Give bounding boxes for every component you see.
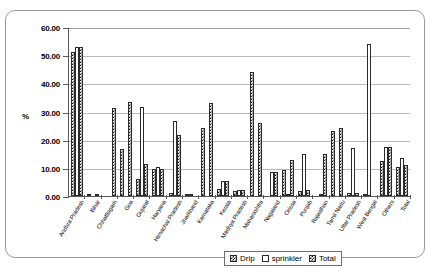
bar bbox=[87, 194, 91, 196]
bar bbox=[112, 108, 116, 196]
bar-group bbox=[331, 28, 343, 196]
bar bbox=[323, 154, 327, 196]
bar bbox=[128, 102, 132, 196]
bar bbox=[351, 148, 355, 196]
x-axis-tick bbox=[377, 195, 378, 199]
bar bbox=[258, 123, 262, 196]
bar bbox=[306, 190, 310, 196]
x-axis-tick bbox=[361, 195, 362, 199]
bar-group bbox=[380, 28, 392, 196]
x-axis-tick-label: Others bbox=[380, 199, 394, 217]
bar-group bbox=[396, 28, 408, 196]
bar-group bbox=[136, 28, 148, 196]
bar bbox=[144, 164, 148, 196]
y-axis-tick-label: 40.00 bbox=[41, 80, 60, 89]
legend-swatch-icon bbox=[309, 255, 316, 262]
y-axis-tick-label: 60.00 bbox=[41, 24, 60, 33]
bar bbox=[367, 44, 371, 196]
bar-group bbox=[120, 28, 132, 196]
x-axis-tick bbox=[182, 195, 183, 199]
y-axis-tick-label: 10.00 bbox=[41, 164, 60, 173]
x-axis-tick-label: Nagaland bbox=[262, 199, 280, 223]
legend-item[interactable]: sprinkler bbox=[262, 254, 302, 263]
x-axis-tick bbox=[198, 195, 199, 199]
x-axis-tick bbox=[133, 195, 134, 199]
x-axis-tick-label: Andhra Pradesh bbox=[58, 199, 85, 238]
x-axis-tick bbox=[312, 195, 313, 199]
x-axis-tick bbox=[117, 195, 118, 199]
bar-group bbox=[201, 28, 213, 196]
y-axis-tick-label: 0.00 bbox=[45, 193, 60, 202]
legend-item[interactable]: Total bbox=[309, 254, 336, 263]
x-axis-tick bbox=[247, 195, 248, 199]
bar bbox=[241, 190, 245, 196]
bar-group bbox=[104, 28, 116, 196]
bar bbox=[388, 147, 392, 196]
y-axis-tick bbox=[63, 197, 69, 198]
bar-group bbox=[71, 28, 83, 196]
y-axis-caption: % bbox=[22, 112, 29, 121]
bar-group bbox=[87, 28, 99, 196]
x-axis-tick bbox=[84, 195, 85, 199]
x-axis-tick-label: Goa bbox=[123, 199, 134, 212]
x-axis-tick-label: Punjab bbox=[299, 199, 314, 218]
legend-swatch-icon bbox=[262, 255, 269, 262]
bar-group bbox=[152, 28, 164, 196]
x-axis-tick bbox=[280, 195, 281, 199]
y-axis-tick-label: 30.00 bbox=[41, 108, 60, 117]
y-axis-tick-label: 50.00 bbox=[41, 52, 60, 61]
bar bbox=[339, 128, 343, 196]
x-axis-tick bbox=[231, 195, 232, 199]
bar-group bbox=[266, 28, 278, 196]
bar-group bbox=[298, 28, 310, 196]
x-axis-tick-label: Haryana bbox=[150, 199, 167, 221]
bar bbox=[189, 194, 193, 196]
bar bbox=[274, 172, 278, 196]
x-axis-tick bbox=[149, 195, 150, 199]
x-axis-tick-label: Total bbox=[399, 199, 411, 213]
x-axis-tick bbox=[263, 195, 264, 199]
bar-group bbox=[363, 28, 375, 196]
bar-group bbox=[169, 28, 181, 196]
bar-group bbox=[315, 28, 327, 196]
bar bbox=[225, 181, 229, 196]
bar-group bbox=[282, 28, 294, 196]
x-axis-tick-label: Orissa bbox=[283, 199, 297, 216]
x-axis-tick bbox=[215, 195, 216, 199]
bar bbox=[120, 149, 124, 196]
bar bbox=[177, 135, 181, 196]
x-axis-tick bbox=[394, 195, 395, 199]
bar bbox=[160, 169, 164, 196]
bar-group bbox=[250, 28, 262, 196]
x-axis-tick bbox=[296, 195, 297, 199]
x-axis-tick bbox=[101, 195, 102, 199]
legend-label: Total bbox=[319, 254, 336, 263]
bar bbox=[404, 165, 408, 196]
x-axis-tick-label: Kerala bbox=[218, 199, 232, 216]
bar bbox=[355, 193, 359, 196]
x-axis-tick-label: Bihar bbox=[89, 199, 101, 214]
bar bbox=[201, 128, 205, 196]
x-axis-tick bbox=[345, 195, 346, 199]
chart-frame: % 0.0010.0020.0030.0040.0050.0060.00 And… bbox=[5, 10, 425, 258]
bar-group bbox=[185, 28, 197, 196]
bar bbox=[290, 160, 294, 196]
x-axis-tick bbox=[166, 195, 167, 199]
x-axis-tick-label: Gujarat bbox=[135, 199, 150, 218]
x-axis-tick bbox=[329, 195, 330, 199]
bar-group bbox=[233, 28, 245, 196]
bar-groups bbox=[69, 28, 410, 196]
bar bbox=[250, 72, 254, 196]
bar bbox=[95, 194, 99, 196]
bar-group bbox=[347, 28, 359, 196]
legend-label: Drip bbox=[240, 254, 255, 263]
bar-group bbox=[217, 28, 229, 196]
bar bbox=[282, 170, 286, 196]
chart-legend: DripsprinklerTotal bbox=[224, 251, 342, 266]
legend-label: sprinkler bbox=[272, 254, 302, 263]
legend-swatch-icon bbox=[230, 255, 237, 262]
y-axis-tick-label: 20.00 bbox=[41, 136, 60, 145]
bar bbox=[331, 131, 335, 196]
plot-area: 0.0010.0020.0030.0040.0050.0060.00 bbox=[68, 28, 410, 197]
legend-item[interactable]: Drip bbox=[230, 254, 255, 263]
